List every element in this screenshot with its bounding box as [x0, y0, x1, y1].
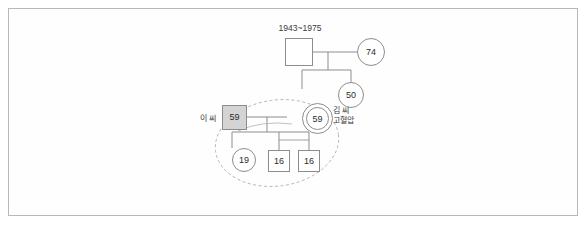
- node-grandfather-deceased[interactable]: [285, 38, 313, 66]
- husband-surname-label: 이 씨: [195, 114, 221, 123]
- node-sibling-50[interactable]: 50: [338, 82, 364, 108]
- client-condition-label: 고혈압: [333, 116, 367, 125]
- node-child-16-b[interactable]: 16: [298, 150, 320, 172]
- genogram-connector-lines: [0, 0, 588, 226]
- marriage-dates-label: 1943~1975: [270, 24, 330, 34]
- client-surname-label: 김 씨: [333, 106, 363, 115]
- node-grandmother[interactable]: 74: [357, 38, 385, 66]
- node-child-19[interactable]: 19: [232, 148, 256, 172]
- node-husband-59[interactable]: 59: [222, 105, 247, 130]
- node-client-59-value: 59: [306, 107, 329, 130]
- genogram-canvas: 1943~1975 74 50 59 이 씨 59 김 씨 고혈압 19 16 …: [0, 0, 588, 226]
- node-child-16-a[interactable]: 16: [268, 150, 290, 172]
- node-child-16-a-value: 16: [274, 157, 284, 166]
- node-child-19-value: 19: [239, 156, 249, 165]
- node-child-16-b-value: 16: [304, 157, 314, 166]
- node-grandmother-value: 74: [366, 48, 376, 57]
- node-client-59[interactable]: 59: [302, 103, 333, 134]
- node-sibling-50-value: 50: [346, 91, 356, 100]
- node-husband-59-value: 59: [229, 113, 239, 122]
